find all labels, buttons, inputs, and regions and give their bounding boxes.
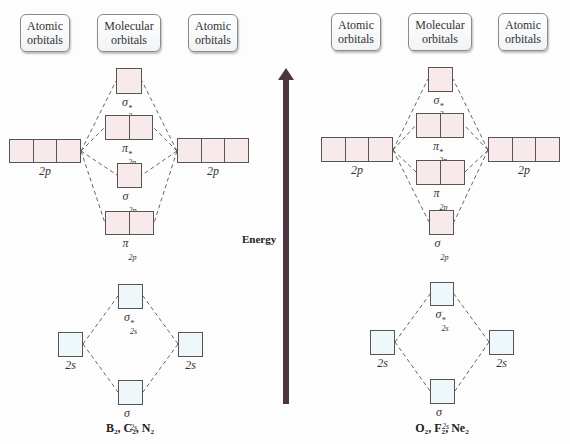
atomic-orbitals-header: Atomicorbitals	[498, 13, 548, 51]
orbital-label-atomic-2s-right: 2s	[496, 356, 507, 371]
orbital-label-sigma-star-2s: σ*2s	[124, 310, 137, 336]
correlation-line	[455, 342, 489, 391]
orbital-box-sigma-star-2s	[118, 284, 143, 309]
orbital-cell	[10, 140, 34, 162]
correlation-line	[83, 344, 118, 392]
correlation-line	[142, 151, 177, 175]
orbital-box-atomic-2s-right	[489, 330, 514, 355]
orbital-symbol: 2p	[39, 164, 51, 178]
orbital-box-atomic-2p-left	[9, 139, 81, 163]
orbital-label-pi-2p: π 2p	[433, 186, 447, 212]
header-text-line1: Molecular	[409, 18, 471, 32]
orbital-subscript: 2p	[440, 254, 448, 262]
orbital-box-sigma-star-2p	[428, 67, 453, 92]
orbital-subscript: 2p	[129, 254, 137, 262]
orbital-label-sigma-star-2s: σ*2s	[435, 307, 448, 333]
correlation-line	[81, 127, 105, 151]
header-text-line2: orbitals	[98, 33, 160, 47]
correlation-line	[153, 127, 177, 151]
correlation-line	[395, 342, 430, 391]
orbital-cell	[178, 139, 202, 162]
orbital-cell	[59, 333, 82, 356]
orbital-cell	[322, 138, 346, 161]
orbital-symbol: 2s	[496, 356, 507, 370]
orbital-label-atomic-2p-left: 2p	[351, 163, 363, 178]
orbital-cell	[106, 212, 130, 234]
orbital-cell	[57, 140, 80, 162]
molecular-orbitals-header: Molecularorbitals	[408, 13, 472, 51]
orbital-cell	[369, 138, 392, 161]
orbital-cell	[429, 68, 452, 91]
correlation-line	[154, 151, 177, 223]
orbital-cell	[431, 380, 454, 403]
orbital-label-atomic-2p-left: 2p	[39, 164, 51, 179]
orbital-cell	[179, 333, 202, 356]
orbital-cell	[371, 331, 394, 354]
header-text-line1: Atomic	[21, 19, 69, 33]
energy-axis-label: Energy	[242, 233, 276, 245]
orbital-subscript: 2s	[130, 328, 137, 336]
molecular-orbitals-header: Molecularorbitals	[97, 14, 161, 52]
connection-lines	[0, 0, 570, 444]
orbital-symbol: 2s	[185, 358, 196, 372]
orbital-cell	[119, 285, 142, 308]
orbital-label-sigma-2p: σ 2p	[435, 236, 449, 262]
correlation-line	[393, 125, 416, 150]
orbital-label-atomic-2p-right: 2p	[518, 163, 530, 178]
orbital-subscript: 2s	[441, 325, 448, 333]
header-text-line1: Atomic	[189, 19, 237, 33]
orbital-cell	[225, 139, 248, 162]
orbital-cell	[441, 114, 464, 137]
correlation-line	[143, 344, 178, 392]
orbital-cell	[118, 164, 141, 187]
orbital-cell	[130, 212, 153, 234]
atomic-orbitals-header: Atomicorbitals	[20, 14, 70, 52]
orbital-box-sigma-2p	[429, 210, 454, 235]
orbital-box-atomic-2p-left	[321, 137, 393, 162]
atomic-orbitals-header: Atomicorbitals	[331, 13, 381, 51]
correlation-line	[465, 150, 488, 172]
orbital-box-pi-2p	[105, 211, 154, 235]
orbital-cell	[106, 116, 130, 139]
orbital-cell	[441, 161, 464, 184]
orbital-cell	[417, 161, 441, 184]
correlation-line	[81, 151, 117, 175]
correlation-line	[83, 296, 118, 344]
orbital-symbol: 2s	[377, 356, 388, 370]
orbital-box-sigma-2s	[430, 379, 455, 404]
correlation-line	[454, 294, 489, 342]
orbital-box-atomic-2s-left	[58, 332, 83, 357]
orbital-cell	[117, 69, 141, 93]
orbital-box-sigma-2s	[118, 380, 143, 405]
orbital-cell	[34, 140, 58, 162]
correlation-line	[393, 150, 416, 172]
header-text-line1: Atomic	[332, 18, 380, 32]
molecules-label: B₂, C₂, N₂	[106, 421, 154, 436]
orbital-cell	[490, 331, 513, 354]
orbital-box-sigma-star-2p	[116, 68, 142, 94]
header-text-line1: Molecular	[98, 19, 160, 33]
orbital-label-atomic-2s-left: 2s	[377, 356, 388, 371]
mo-diagram-canvas: Energy AtomicorbitalsMolecularorbitalsAt…	[0, 0, 570, 444]
orbital-cell	[417, 114, 441, 137]
orbital-symbol: 2s	[65, 358, 76, 372]
header-text-line2: orbitals	[409, 32, 471, 46]
correlation-line	[81, 151, 105, 223]
orbital-label-atomic-2p-right: 2p	[207, 164, 219, 179]
orbital-box-pi-2p	[416, 160, 465, 185]
orbital-box-atomic-2p-right	[177, 138, 249, 163]
header-text-line2: orbitals	[21, 33, 69, 47]
correlation-line	[395, 294, 430, 342]
energy-arrow-icon	[278, 68, 294, 404]
orbital-box-sigma-star-2s	[430, 282, 454, 306]
header-text-line1: Atomic	[499, 18, 547, 32]
orbital-box-atomic-2s-left	[370, 330, 395, 355]
orbital-box-pi-star-2p	[416, 113, 464, 138]
molecules-label: O₂, F₂, Ne₂	[415, 421, 468, 436]
orbital-label-atomic-2s-left: 2s	[65, 358, 76, 373]
correlation-line	[464, 125, 488, 150]
orbital-label-pi-2p: π 2p	[122, 236, 136, 262]
orbital-label-atomic-2s-right: 2s	[185, 358, 196, 373]
orbital-cell	[119, 381, 142, 404]
correlation-line	[143, 296, 178, 344]
